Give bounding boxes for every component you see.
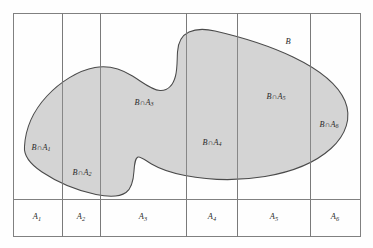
event-b-label: B [285,38,290,46]
b-cap-a2-label: B∩A2 [72,169,91,178]
column-label-a6: A6 [331,213,339,222]
set-index-subscript: 3 [151,101,154,107]
set-index-subscript: 3 [144,215,147,222]
set-index-subscript: 5 [283,95,286,101]
set-index-subscript: 6 [336,215,339,222]
set-index-subscript: 5 [275,215,278,222]
b-cap-a1-label: B∩A1 [31,144,50,153]
set-index-subscript: 1 [48,146,51,152]
diagram-canvas [0,0,373,248]
set-index-subscript: 2 [89,171,92,177]
column-label-a4: A4 [208,213,216,222]
b-cap-a6-label: B∩A6 [319,121,338,130]
set-index-subscript: 2 [82,215,85,222]
column-label-a5: A5 [270,213,278,222]
column-label-a3: A3 [139,213,147,222]
set-index-subscript: 6 [336,123,339,129]
b-cap-a4-label: B∩A4 [202,139,221,148]
b-cap-a3-label: B∩A3 [134,99,153,108]
set-index-subscript: 4 [219,141,222,147]
set-index-subscript: 1 [38,215,41,222]
b-cap-a5-label: B∩A5 [266,93,285,102]
partition-diagram-figure: B B∩A1B∩A2B∩A3B∩A4B∩A5B∩A6 A1A2A3A4A5A6 [0,0,373,248]
column-label-a1: A1 [33,213,41,222]
column-label-a2: A2 [77,213,85,222]
set-index-subscript: 4 [213,215,216,222]
